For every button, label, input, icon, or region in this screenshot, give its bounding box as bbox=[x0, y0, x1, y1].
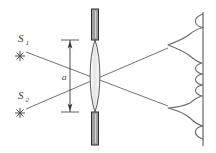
intensity-curve-upper bbox=[168, 14, 203, 74]
aperture-bar-bottom bbox=[92, 112, 99, 145]
source-s1-label: S bbox=[18, 32, 24, 44]
figure-canvas: a S 1 S 2 bbox=[0, 0, 216, 153]
intensity-curve-middle bbox=[196, 74, 203, 85]
source-s1-subscript: 1 bbox=[26, 39, 30, 47]
source-s2-label: S bbox=[18, 89, 24, 101]
diffraction-intensity-profile bbox=[168, 14, 203, 139]
aperture-bar-top bbox=[92, 9, 99, 40]
source-s1-group: S 1 bbox=[15, 32, 29, 61]
dimension-group: a bbox=[61, 40, 79, 112]
dimension-label: a bbox=[62, 72, 67, 82]
source-s2-star-marker bbox=[15, 108, 25, 118]
intensity-curve-lower bbox=[168, 85, 203, 139]
optics-figure: a S 1 S 2 bbox=[0, 0, 216, 153]
biconvex-lens bbox=[90, 40, 100, 112]
source-s2-group: S 2 bbox=[15, 89, 30, 118]
source-s1-star-marker bbox=[15, 51, 25, 61]
source-s2-subscript: 2 bbox=[26, 96, 30, 104]
lens-group bbox=[90, 40, 100, 112]
